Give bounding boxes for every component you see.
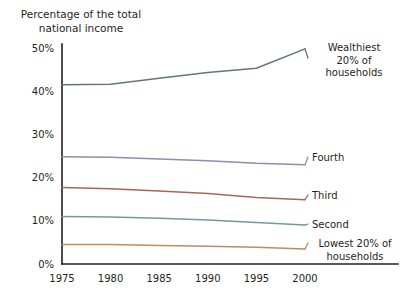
series-leader-line [305,49,308,58]
series-line [62,188,305,200]
series-lines-group [62,49,305,249]
x-tick-label: 1985 [146,273,171,284]
series-leader-line [305,195,308,200]
y-tick-label: 10% [32,215,54,226]
series-line [62,245,305,249]
y-axis-tick-labels: 0%10%20%30%40%50% [32,43,54,270]
series-leader-line [305,224,308,225]
y-tick-label: 30% [32,129,54,140]
series-label-fourth: Fourth [312,152,344,165]
series-label-wealthiest: Wealthiest 20% of households [312,42,396,80]
x-axis-tick-labels: 197519801985199019952000 [49,273,317,284]
series-line [62,216,305,225]
series-label-second: Second [312,219,349,232]
series-leader-line [305,243,308,249]
series-leader-line [305,157,308,165]
income-distribution-chart: Percentage of the total national income … [0,0,400,294]
series-label-lowest: Lowest 20% of households [310,238,400,263]
x-tick-label: 1980 [98,273,123,284]
x-tick-label: 1975 [49,273,74,284]
y-tick-label: 50% [32,43,54,54]
x-tick-label: 2000 [292,273,317,284]
y-tick-label: 20% [32,172,54,183]
series-line [62,157,305,165]
y-tick-label: 0% [38,259,54,270]
y-tick-label: 40% [32,86,54,97]
label-leader-lines-group [305,49,308,249]
x-tick-label: 1990 [195,273,220,284]
series-line [62,49,305,85]
series-label-third: Third [312,190,338,203]
x-tick-label: 1995 [244,273,269,284]
